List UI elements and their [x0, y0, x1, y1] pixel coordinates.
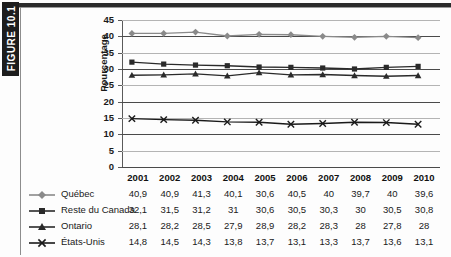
data-point-marker — [224, 33, 231, 40]
table-cell-value: 30,6 — [249, 188, 281, 199]
table-cell-value: 14,5 — [154, 236, 186, 247]
chart-area: Pourcentage 051015202530354045 — [70, 14, 445, 172]
legend-label: Ontario — [61, 220, 92, 231]
x-axis-tick-label: 2001 — [122, 172, 154, 183]
legend-data-table: Québec40,940,941,340,130,640,54039,74039… — [25, 187, 445, 251]
y-axis-tick-label: 10 — [84, 129, 114, 139]
data-point-marker — [225, 63, 230, 68]
table-cell-value: 40,9 — [154, 188, 186, 199]
table-cell-value: 27,9 — [217, 220, 249, 231]
series-line — [132, 73, 418, 77]
series-lines — [122, 20, 440, 167]
series-line — [132, 32, 418, 38]
y-axis-tick — [118, 167, 122, 168]
table-cell-value: 30 — [345, 204, 377, 215]
x-axis-tick-label: 2002 — [154, 172, 186, 183]
data-point-marker — [416, 64, 421, 69]
legend-label: Québec — [61, 188, 94, 199]
data-point-marker — [160, 30, 167, 37]
table-cell-value: 40 — [376, 188, 408, 199]
data-point-marker — [129, 30, 136, 37]
table-cell-value: 39,7 — [345, 188, 377, 199]
plot-area: 051015202530354045 — [122, 20, 440, 167]
table-cell-value: 13,6 — [376, 236, 408, 247]
table-cell-value: 31 — [217, 204, 249, 215]
left-border — [20, 7, 21, 255]
y-axis-tick-label: 35 — [84, 48, 114, 58]
table-cell-value: 28,1 — [122, 220, 154, 231]
table-cell-value: 13,8 — [217, 236, 249, 247]
x-axis-tick-label: 2004 — [217, 172, 249, 183]
x-axis-tick-labels: 2001200220032004200520062007200820092010 — [122, 172, 444, 185]
table-cell-value: 30,3 — [313, 204, 345, 215]
x-axis-tick-label: 2005 — [249, 172, 281, 183]
figure-number-label: FIGURE 10.1 — [3, 1, 20, 77]
table-cell-value: 31,2 — [186, 204, 218, 215]
x-axis-tick-label: 2009 — [376, 172, 408, 183]
table-cell-value: 28,3 — [313, 220, 345, 231]
table-cell-value: 13,7 — [249, 236, 281, 247]
table-row: Ontario28,128,228,527,928,928,228,32827,… — [25, 219, 445, 235]
x-axis-tick-label: 2003 — [186, 172, 218, 183]
figure-container: FIGURE 10.1 Pourcentage 0510152025303540… — [0, 0, 451, 257]
data-point-marker — [288, 31, 295, 38]
y-axis-tick-label: 15 — [84, 113, 114, 123]
table-cell-value: 13,7 — [345, 236, 377, 247]
top-rule-thin — [18, 7, 451, 8]
table-cell-value: 30,5 — [376, 204, 408, 215]
table-cell-value: 31,5 — [154, 204, 186, 215]
table-cell-value: 30,5 — [281, 204, 313, 215]
x-axis-tick-label: 2006 — [281, 172, 313, 183]
data-point-marker — [351, 34, 358, 41]
table-cell-value: 28 — [408, 220, 440, 231]
legend-marker-cross-icon — [28, 235, 58, 251]
y-axis-tick-label: 5 — [84, 146, 114, 156]
table-row: États-Unis14,814,514,313,813,713,113,313… — [25, 235, 445, 251]
y-axis-tick-label: 45 — [84, 15, 114, 25]
y-axis-tick-label: 25 — [84, 80, 114, 90]
data-point-marker — [192, 29, 199, 36]
x-axis-tick-label: 2008 — [345, 172, 377, 183]
table-cell-value: 27,8 — [376, 220, 408, 231]
data-point-marker — [161, 62, 166, 67]
data-point-marker — [384, 65, 389, 70]
legend-marker-triangle-icon — [28, 219, 58, 235]
data-point-marker — [129, 60, 134, 65]
table-cell-value: 40,9 — [122, 188, 154, 199]
table-row: Reste du Canada32,131,531,23130,630,530,… — [25, 203, 445, 219]
data-point-marker — [257, 64, 262, 69]
table-cell-value: 14,3 — [186, 236, 218, 247]
legend-marker-square-icon — [28, 203, 58, 219]
table-cell-value: 28 — [345, 220, 377, 231]
table-cell-value: 39,6 — [408, 188, 440, 199]
table-cell-value: 30,6 — [249, 204, 281, 215]
legend-label: États-Unis — [61, 236, 105, 247]
table-row: Québec40,940,941,340,130,640,54039,74039… — [25, 187, 445, 203]
table-cell-value: 28,2 — [154, 220, 186, 231]
x-axis-tick-label: 2007 — [313, 172, 345, 183]
gridline — [122, 167, 440, 168]
table-cell-value: 30,8 — [408, 204, 440, 215]
data-point-marker — [288, 65, 293, 70]
table-cell-value: 28,5 — [186, 220, 218, 231]
table-cell-value: 28,2 — [281, 220, 313, 231]
data-point-marker — [319, 33, 326, 40]
data-point-marker — [256, 31, 263, 38]
y-axis-tick-label: 40 — [84, 31, 114, 41]
figure-number-tab: FIGURE 10.1 — [2, 2, 19, 76]
table-cell-value: 32,1 — [122, 204, 154, 215]
table-cell-value: 40,5 — [281, 188, 313, 199]
data-point-marker — [320, 65, 325, 70]
legend-marker-diamond-icon — [28, 187, 58, 203]
y-axis-tick-label: 0 — [84, 162, 114, 172]
table-cell-value: 13,3 — [313, 236, 345, 247]
y-axis-tick-label: 20 — [84, 97, 114, 107]
data-point-marker — [415, 34, 422, 41]
table-cell-value: 14,8 — [122, 236, 154, 247]
table-cell-value: 13,1 — [281, 236, 313, 247]
table-cell-value: 40,1 — [217, 188, 249, 199]
table-cell-value: 40 — [313, 188, 345, 199]
table-cell-value: 41,3 — [186, 188, 218, 199]
data-point-marker — [383, 33, 390, 40]
data-point-marker — [352, 66, 357, 71]
